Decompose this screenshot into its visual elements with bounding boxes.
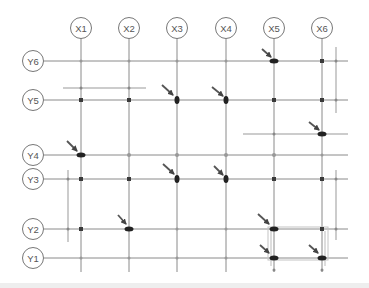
axis-label: Y2 bbox=[27, 224, 39, 235]
aux-ticks bbox=[67, 60, 338, 272]
arrow-icon bbox=[162, 85, 173, 95]
node-x1-y4[interactable] bbox=[77, 153, 86, 158]
bottom-strip bbox=[0, 283, 369, 288]
axis-label: X5 bbox=[268, 23, 280, 34]
arrow-icon bbox=[214, 166, 223, 175]
axis-bubble-y5[interactable]: Y5 bbox=[23, 90, 44, 111]
axis-bubble-x3[interactable]: X3 bbox=[167, 18, 188, 39]
axis-label: Y1 bbox=[27, 253, 39, 264]
arrow-icon bbox=[258, 214, 269, 224]
highlighted-nodes bbox=[77, 59, 327, 261]
axis-label: X3 bbox=[171, 23, 183, 34]
arrow-icon bbox=[118, 215, 126, 224]
axis-label: Y4 bbox=[27, 150, 39, 161]
y-grid-lines bbox=[44, 61, 348, 258]
axis-label: X4 bbox=[220, 23, 232, 34]
grid-plan-drawing: X1 X2 X3 X4 X5 X6 Y6 Y5 bbox=[0, 0, 369, 283]
node-x3-y5[interactable] bbox=[175, 96, 180, 104]
auxiliary-lines bbox=[63, 47, 348, 266]
axis-bubble-y2[interactable]: Y2 bbox=[23, 219, 44, 240]
node-x2-y2[interactable] bbox=[125, 227, 134, 232]
node-x6-y1[interactable] bbox=[318, 256, 327, 261]
arrow-icon bbox=[67, 141, 77, 151]
axis-bubble-x5[interactable]: X5 bbox=[264, 18, 285, 39]
node-x6-aux[interactable] bbox=[318, 132, 327, 137]
axis-label: X2 bbox=[123, 23, 135, 34]
arrow-icon bbox=[309, 122, 319, 130]
node-x5-y2[interactable] bbox=[270, 227, 279, 232]
axis-bubble-y3[interactable]: Y3 bbox=[23, 169, 44, 190]
axis-bubble-x1[interactable]: X1 bbox=[71, 18, 92, 39]
axis-label: Y6 bbox=[27, 56, 39, 67]
node-x5-y1[interactable] bbox=[270, 256, 279, 261]
axis-bubble-y6[interactable]: Y6 bbox=[23, 51, 44, 72]
pointer-arrows bbox=[67, 49, 319, 253]
axis-label: X1 bbox=[75, 23, 87, 34]
axis-bubble-x6[interactable]: X6 bbox=[312, 18, 333, 39]
column-nodes bbox=[79, 59, 324, 231]
node-x4-y3[interactable] bbox=[224, 175, 229, 183]
aux-frame-box bbox=[268, 227, 328, 260]
axis-label: Y3 bbox=[27, 174, 39, 185]
y-axis-bubbles: Y6 Y5 Y4 Y3 Y2 Y1 bbox=[23, 51, 44, 269]
node-x4-y5[interactable] bbox=[224, 96, 229, 104]
x-axis-bubbles: X1 X2 X3 X4 X5 X6 bbox=[71, 18, 333, 39]
axis-label: X6 bbox=[316, 23, 328, 34]
drawing-canvas: X1 X2 X3 X4 X5 X6 Y6 Y5 bbox=[0, 0, 369, 283]
node-x5-y6[interactable] bbox=[270, 59, 279, 64]
axis-bubble-x2[interactable]: X2 bbox=[119, 18, 140, 39]
axis-bubble-y4[interactable]: Y4 bbox=[23, 145, 44, 166]
axis-bubble-y1[interactable]: Y1 bbox=[23, 248, 44, 269]
node-x3-y3[interactable] bbox=[175, 175, 180, 183]
arrow-icon bbox=[212, 87, 223, 96]
arrow-icon bbox=[163, 164, 174, 174]
axis-bubble-x4[interactable]: X4 bbox=[216, 18, 237, 39]
axis-label: Y5 bbox=[27, 95, 39, 106]
arrow-icon bbox=[262, 49, 271, 57]
arrow-icon bbox=[309, 245, 318, 253]
